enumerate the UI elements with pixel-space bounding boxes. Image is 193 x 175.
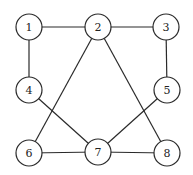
- edges-layer: [29, 27, 167, 153]
- node-6: 6: [16, 140, 42, 166]
- node-label: 2: [95, 21, 102, 34]
- node-3: 3: [153, 14, 179, 40]
- node-label: 6: [26, 147, 33, 160]
- graph-diagram: 12345678: [0, 0, 193, 175]
- node-label: 7: [95, 146, 102, 159]
- node-label: 3: [163, 21, 170, 34]
- node-label: 8: [164, 147, 171, 160]
- node-4: 4: [16, 77, 42, 103]
- edge-4-7: [29, 90, 98, 152]
- node-label: 1: [26, 21, 33, 34]
- edge-5-7: [98, 90, 167, 152]
- node-7: 7: [85, 139, 111, 165]
- node-5: 5: [154, 77, 180, 103]
- node-label: 5: [164, 84, 171, 97]
- nodes-layer: 12345678: [16, 14, 180, 166]
- node-label: 4: [26, 84, 33, 97]
- node-2: 2: [85, 14, 111, 40]
- node-8: 8: [154, 140, 180, 166]
- node-1: 1: [16, 14, 42, 40]
